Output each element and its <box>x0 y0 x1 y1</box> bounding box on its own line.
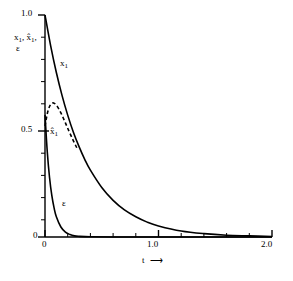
x1-curve-label-sub: 1 <box>65 62 69 70</box>
x-tick-label-1.0: 1.0 <box>147 240 158 249</box>
y-axis-title: x1, x̂1, ε <box>14 33 37 53</box>
series-line-epsilon <box>45 115 272 237</box>
y-axis-title-mid: , x̂ <box>22 32 31 42</box>
x-axis-title: t ⟶ <box>142 256 162 265</box>
x-tick-label-2.0: 2.0 <box>261 240 272 249</box>
y-axis-title-comma: , <box>35 32 37 42</box>
axis-lines <box>45 15 272 237</box>
y-tick-label-1.0: 1.0 <box>21 9 32 18</box>
series-line-x1 <box>45 15 272 237</box>
x1-curve-label: x1 <box>60 59 68 70</box>
chart-plot-area: x1, x̂1, ε 1.0 0.5 0 0 1.0 2.0 t ⟶ x1 x̂… <box>0 0 293 281</box>
epsilon-curve-label: ε <box>62 199 66 208</box>
x-tick-label-0: 0 <box>42 240 47 249</box>
y-axis-title-epsilon: ε <box>16 44 37 53</box>
y-tick-label-0: 0 <box>33 231 38 240</box>
x1hat-curve-label: x̂1 <box>50 127 58 138</box>
x-axis-title-text: t <box>142 255 145 265</box>
y-axis-ticks <box>38 15 45 237</box>
y-tick-label-0.5: 0.5 <box>21 125 32 134</box>
right-arrow-icon: ⟶ <box>150 255 162 265</box>
x1hat-curve-label-sub: 1 <box>55 130 59 138</box>
